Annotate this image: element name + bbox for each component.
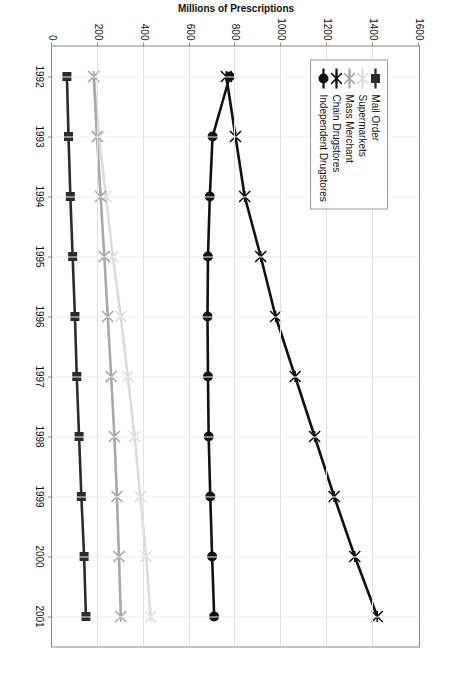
x-tick-label: 1995 — [34, 245, 45, 267]
x-tick-mark — [48, 556, 52, 557]
y-tick-label: 600 — [184, 23, 195, 40]
x-tick-label: 1998 — [34, 425, 45, 447]
data-point-marker — [331, 73, 342, 84]
legend-item-mail-order[interactable]: Mail Order — [369, 67, 382, 201]
series-mass-merchant — [88, 71, 126, 622]
x-gridline — [52, 316, 419, 317]
x-tick-label: 1999 — [34, 485, 45, 507]
y-tick-mark — [51, 42, 52, 46]
legend-item-supermarkets[interactable]: Supermarkets — [356, 67, 369, 201]
x-gridline — [52, 616, 419, 617]
series-mail-order — [62, 72, 90, 621]
y-tick-label: 1200 — [322, 18, 333, 40]
y-tick-label: 200 — [92, 23, 103, 40]
y-tick-mark — [280, 42, 281, 46]
data-point-marker — [319, 73, 329, 83]
x-gridline — [52, 376, 419, 377]
chart-legend: Mail OrderSupermarketsMass MerchantChain… — [310, 59, 388, 209]
legend-swatch-circle-icon — [318, 67, 329, 89]
legend-label: Chain Drugstores — [330, 94, 343, 172]
x-gridline — [52, 556, 419, 557]
series-line — [208, 76, 230, 616]
x-tick-mark — [48, 196, 52, 197]
data-point-marker — [371, 74, 380, 83]
legend-label: Mail Order — [369, 94, 382, 141]
x-tick-label: 2001 — [34, 605, 45, 627]
legend-swatch-square-icon — [370, 67, 381, 89]
y-axis-title: Millions of Prescriptions — [178, 3, 294, 14]
y-tick-mark — [97, 42, 98, 46]
legend-item-chain-drugstores[interactable]: Chain Drugstores — [330, 67, 343, 201]
x-tick-label: 1994 — [34, 185, 45, 207]
x-tick-label: 1996 — [34, 305, 45, 327]
y-tick-mark — [326, 42, 327, 46]
x-tick-label: 1992 — [34, 65, 45, 87]
legend-label: Supermarkets — [356, 94, 369, 156]
legend-item-independent-drugstores[interactable]: Independent Drugstores — [317, 67, 330, 201]
y-tick-label: 0 — [47, 34, 58, 40]
x-tick-mark — [48, 616, 52, 617]
x-tick-label: 2000 — [34, 545, 45, 567]
x-tick-mark — [48, 316, 52, 317]
y-tick-mark — [189, 42, 190, 46]
y-tick-mark — [235, 42, 236, 46]
rotated-chart-canvas: 0200400600800100012001400160019921993199… — [0, 0, 450, 693]
data-point-marker — [344, 73, 355, 84]
y-tick-mark — [418, 42, 419, 46]
y-tick-label: 1600 — [414, 18, 425, 40]
x-tick-mark — [48, 496, 52, 497]
y-tick-label: 1400 — [368, 18, 379, 40]
legend-label: Mass Merchant — [343, 94, 356, 162]
y-tick-mark — [143, 42, 144, 46]
x-gridline — [52, 496, 419, 497]
x-tick-mark — [48, 136, 52, 137]
y-tick-label: 400 — [138, 23, 149, 40]
x-gridline — [52, 256, 419, 257]
legend-swatch-x-icon — [344, 67, 355, 89]
legend-label: Independent Drugstores — [317, 94, 330, 201]
y-tick-label: 800 — [230, 23, 241, 40]
x-tick-label: 1993 — [34, 125, 45, 147]
x-tick-mark — [48, 436, 52, 437]
y-tick-label: 1000 — [276, 18, 287, 40]
chart-area: 0200400600800100012001400160019921993199… — [0, 0, 450, 693]
x-tick-label: 1997 — [34, 365, 45, 387]
x-tick-mark — [48, 76, 52, 77]
chart-screenshot: 0200400600800100012001400160019921993199… — [0, 0, 450, 693]
series-independent-drugstores — [203, 71, 235, 621]
x-tick-mark — [48, 376, 52, 377]
x-gridline — [52, 436, 419, 437]
legend-swatch-x-icon — [357, 67, 368, 89]
data-point-marker — [357, 73, 368, 84]
y-tick-mark — [372, 42, 373, 46]
series-line — [67, 76, 86, 616]
legend-item-mass-merchant[interactable]: Mass Merchant — [343, 67, 356, 201]
legend-swatch-x-icon — [331, 67, 342, 89]
x-tick-mark — [48, 256, 52, 257]
